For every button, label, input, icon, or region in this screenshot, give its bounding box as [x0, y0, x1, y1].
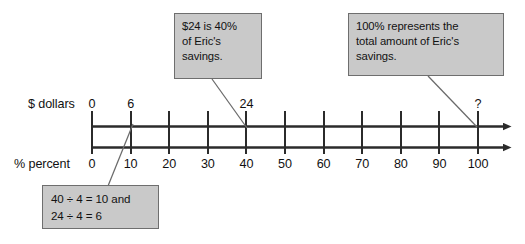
leader-line-callout-100	[428, 76, 477, 127]
dollars-tick-label-40: 24	[239, 97, 253, 111]
percent-tick-label-60: 60	[317, 157, 331, 171]
percent-tick-label-20: 20	[162, 157, 176, 171]
dollars-axis-label: $ dollars	[28, 97, 75, 111]
percent-tick-label-100: 100	[468, 157, 489, 171]
callout-percent-100: 100% represents the total amount of Eric…	[348, 13, 504, 76]
percent-tick-label-70: 70	[355, 157, 369, 171]
percent-tick-label-30: 30	[201, 157, 215, 171]
callout-division-work: 40 ÷ 4 = 10 and 24 ÷ 4 = 6	[42, 185, 159, 229]
percent-tick-label-10: 10	[124, 157, 138, 171]
percent-tick-label-0: 0	[89, 157, 96, 171]
dollars-tick-label-0: 0	[89, 97, 96, 111]
leader-line-callout-div	[108, 124, 133, 186]
callout-dollars-24: $24 is 40% of Eric's savings.	[174, 13, 262, 79]
dollars-tick-label-10: 6	[127, 97, 134, 111]
number-line-diagram: $ dollars % percent 0624?010203040506070…	[0, 0, 525, 244]
percent-tick-label-80: 80	[394, 157, 408, 171]
percent-axis-label: % percent	[14, 157, 70, 171]
percent-tick-label-40: 40	[239, 157, 253, 171]
dollars-tick-label-100: ?	[475, 97, 482, 111]
percent-tick-label-50: 50	[278, 157, 292, 171]
percent-tick-label-90: 90	[432, 157, 446, 171]
